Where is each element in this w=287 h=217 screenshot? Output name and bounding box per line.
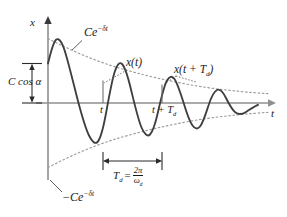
lower-envelope-base: −Ce [62, 190, 83, 204]
amplitude-arrowhead-up [29, 64, 34, 70]
upper-envelope-curve [48, 39, 268, 94]
tick-label-t-plus-td: t + Td [152, 105, 176, 118]
y-axis-label: x [30, 17, 35, 28]
tick-label-t-plus-td-subscript: d [173, 110, 176, 117]
amplitude-label: C cos α [8, 76, 41, 87]
upper-envelope-label: Ce−δt [84, 25, 108, 38]
signal-second-label: x(t + Td) [174, 64, 213, 78]
lower-envelope-label: −Ce−δt [62, 190, 94, 203]
amplitude-arrowhead-down [29, 97, 34, 103]
tick-label-t: t [100, 105, 103, 116]
period-arrowhead-left [103, 158, 109, 163]
lower-envelope-exponent: −δt [83, 189, 94, 198]
period-formula-equals: = [123, 169, 133, 181]
damped-oscillation-figure: x t Ce−δt −Ce−δt C cos α x(t) x(t + Td) … [0, 0, 287, 217]
upper-envelope-base: Ce [84, 25, 97, 39]
period-formula-denominator-group: ωd [133, 176, 144, 187]
upper-envelope-exponent: −δt [97, 24, 108, 33]
period-formula-fraction: 2π ωd [133, 166, 144, 187]
signal-first-label: x(t) [126, 57, 142, 69]
period-formula-label: Td= 2π ωd [113, 166, 143, 187]
signal-second-suffix: ) [210, 63, 214, 75]
x-axis-label: t [271, 108, 274, 119]
tick-label-t-plus-td-prefix: t + T [152, 104, 173, 115]
leader-line-lower-envelope [50, 180, 62, 192]
signal-second-prefix: x(t + T [174, 63, 206, 75]
period-arrowhead-right [156, 158, 162, 163]
leader-line-upper-envelope [72, 41, 82, 51]
figure-canvas [0, 0, 287, 217]
x-axis-arrowhead [268, 99, 276, 106]
damped-sine-curve [48, 39, 258, 143]
period-formula-denominator-subscript: d [140, 180, 143, 186]
y-axis-arrowhead [44, 16, 51, 24]
